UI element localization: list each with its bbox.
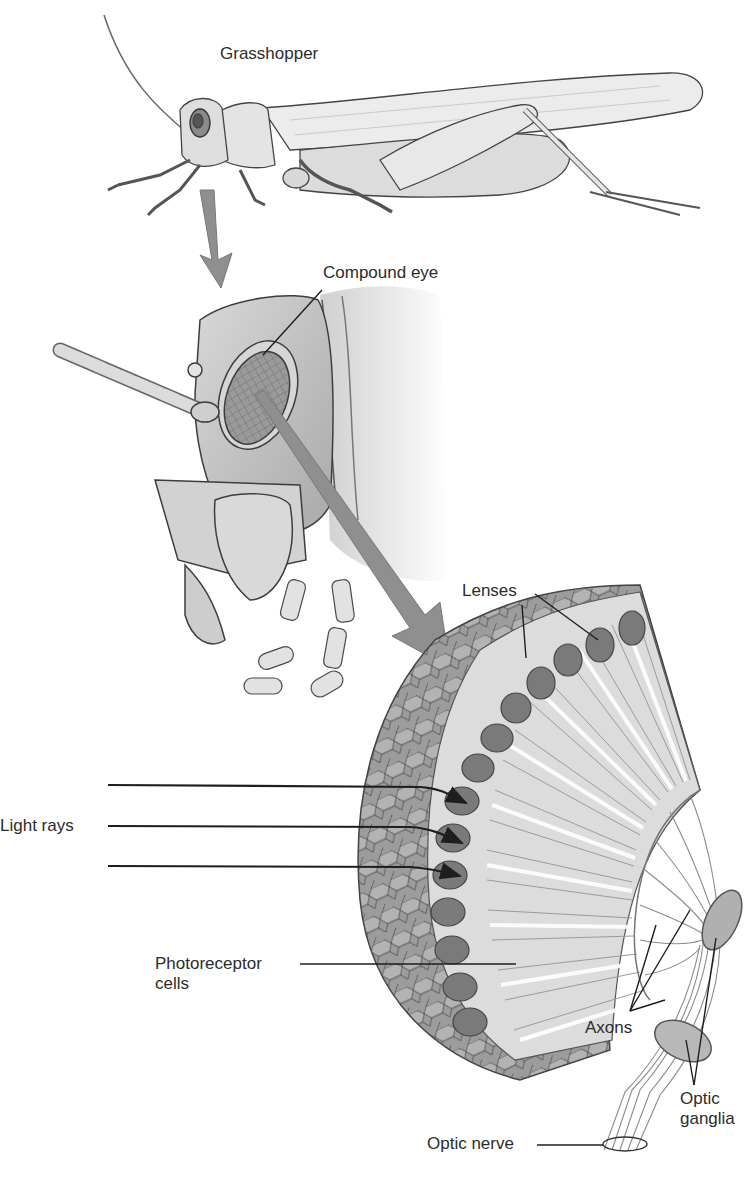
photoreceptor-cells-label: Photoreceptor cells: [155, 954, 295, 994]
lenses-label: Lenses: [462, 581, 517, 601]
optic-ganglia-label: Optic ganglia: [680, 1089, 747, 1129]
magnified-head-drawing: [60, 286, 450, 700]
light-rays-label: Light rays: [0, 816, 74, 836]
photoreceptor-label-line2: cells: [155, 974, 189, 993]
optic-nerve-label: Optic nerve: [427, 1134, 514, 1154]
compound-eye-illustration: [0, 0, 747, 1197]
photoreceptor-label-line1: Photoreceptor: [155, 954, 262, 973]
grasshopper-title: Grasshopper: [220, 44, 318, 64]
axons-label: Axons: [585, 1018, 632, 1038]
pointer-arrow-to-head: [200, 190, 232, 288]
optic-ganglia-label-line2: ganglia: [680, 1109, 735, 1128]
optic-ganglia-label-line1: Optic: [680, 1089, 720, 1108]
compound-eye-label: Compound eye: [323, 263, 438, 283]
grasshopper-drawing: [104, 15, 703, 215]
